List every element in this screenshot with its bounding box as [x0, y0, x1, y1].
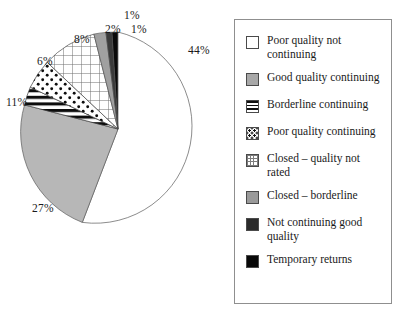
- pie-label-11: 11%: [6, 96, 27, 108]
- pie-label-44: 44%: [188, 44, 210, 56]
- legend-item-list: Poor quality not continuing Good quality…: [246, 34, 385, 270]
- legend-item-label: Borderline continuing: [267, 98, 368, 112]
- legend-swatch-grid-icon: [246, 154, 259, 167]
- legend-item-label: Temporary returns: [267, 253, 352, 267]
- pie-label-2: 2%: [105, 23, 121, 35]
- legend-swatch-solid-dark-icon: [246, 218, 259, 231]
- legend-item-label: Closed – quality not rated: [267, 152, 385, 179]
- legend-swatch-solid-mid-grey-icon: [246, 191, 259, 204]
- pie-label-1-upper: 1%: [124, 9, 140, 21]
- legend-item-label: Poor quality continuing: [267, 125, 376, 139]
- legend-item-label: Poor quality not continuing: [267, 34, 385, 61]
- legend-swatch-dots-icon: [246, 127, 259, 140]
- legend-item-good-quality-continuing[interactable]: Good quality continuing: [246, 71, 385, 88]
- legend-item-closed-borderline[interactable]: Closed – borderline: [246, 189, 385, 206]
- pie-label-8: 8%: [74, 33, 90, 45]
- pie-label-6: 6%: [37, 55, 53, 67]
- legend-item-poor-quality-not-continuing[interactable]: Poor quality not continuing: [246, 34, 385, 61]
- legend-item-label: Not continuing good quality: [267, 216, 385, 243]
- pie-label-1-lower: 1%: [131, 23, 147, 35]
- pie-label-27: 27%: [32, 202, 54, 214]
- pie-chart-figure: 44% 27% 11% 6% 8% 2% 1% 1% Poor quality …: [0, 0, 397, 311]
- legend-item-borderline-continuing[interactable]: Borderline continuing: [246, 98, 385, 115]
- legend-swatch-solid-grey-icon: [246, 73, 259, 86]
- legend-item-poor-quality-continuing[interactable]: Poor quality continuing: [246, 125, 385, 142]
- legend-item-label: Good quality continuing: [267, 71, 379, 85]
- legend-item-not-continuing-good-quality[interactable]: Not continuing good quality: [246, 216, 385, 243]
- chart-legend: Poor quality not continuing Good quality…: [234, 19, 392, 304]
- legend-swatch-horizontal-stripes-icon: [246, 100, 259, 113]
- legend-item-label: Closed – borderline: [267, 189, 358, 203]
- legend-swatch-solid-white-icon: [246, 36, 259, 49]
- legend-item-closed-quality-not-rated[interactable]: Closed – quality not rated: [246, 152, 385, 179]
- legend-swatch-solid-black-icon: [246, 255, 259, 268]
- legend-item-temporary-returns[interactable]: Temporary returns: [246, 253, 385, 270]
- cut-off-title-fragment: [22, 0, 222, 3]
